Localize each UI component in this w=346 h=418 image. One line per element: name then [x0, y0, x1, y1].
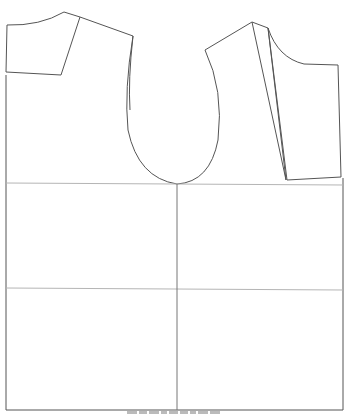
sleeve-shoulder-piece	[80, 17, 133, 110]
front-panel-narrow	[252, 22, 286, 180]
caption-glyph-fragment	[198, 411, 208, 414]
caption-glyph-fragment	[210, 411, 220, 414]
grid-line-horizontal-2	[6, 288, 343, 290]
caption-glyph-fragment	[169, 411, 178, 414]
caption-glyph-fragment	[139, 411, 147, 414]
caption-glyph-fragment	[127, 411, 137, 414]
main-body-rectangle	[6, 75, 343, 410]
caption-glyph-fragment	[180, 411, 188, 414]
front-bodice-right	[268, 28, 341, 180]
pattern-diagram	[0, 0, 346, 418]
figure-caption	[0, 411, 346, 418]
back-shoulder-yoke	[6, 12, 80, 75]
caption-glyph-fragment	[190, 411, 196, 414]
caption-glyph-fragment	[149, 411, 159, 414]
front-armhole-curve-piece	[127, 22, 252, 184]
caption-glyph-fragment	[161, 411, 167, 414]
